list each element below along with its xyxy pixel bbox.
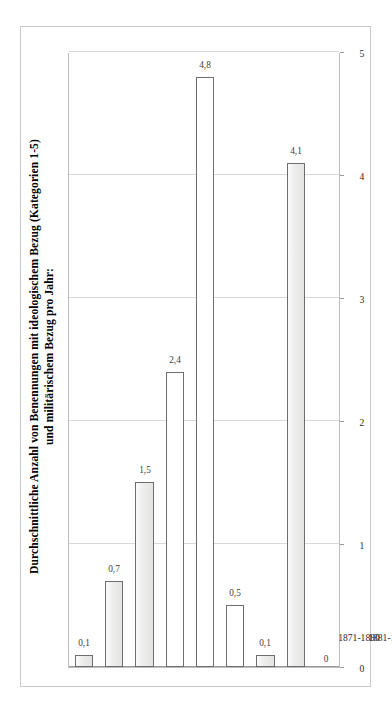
bar-slot: 0 [317,52,335,667]
value-tick-mark-1 [340,544,344,545]
value-tick-label-3: 3 [360,294,365,305]
chart-title-line-2: und militärischem Bezug pro Jahr: [42,27,57,686]
bar-value-label-1891-1900: 1,5 [139,466,151,476]
bar-1871-1880[interactable] [75,655,93,667]
bar-slot: 0,7 [105,52,123,667]
value-tick-label-5: 5 [360,48,365,59]
value-tick-label-1: 1 [360,540,365,551]
bar-slot: 4,1 [287,52,305,667]
value-tick-mark-0 [340,667,344,668]
bar-slot: 0,1 [75,52,93,667]
bar-value-label-1915-1918: 0,5 [229,589,241,599]
value-tick-mark-2 [340,421,344,422]
chart-title: Durchschnittliche Anzahl von Benennungen… [27,27,57,686]
bar-1881-1890[interactable] [105,581,123,667]
bar-value-label-1919-1932: 0,1 [260,638,272,648]
chart-title-line-1: Durchschnittliche Anzahl von Benennungen… [27,27,42,686]
bar-value-label-1881-1890: 0,7 [109,564,121,574]
value-axis [68,668,340,686]
value-tick-mark-3 [340,298,344,299]
bar-1901-1910[interactable] [166,372,184,667]
bar-slot: 0,5 [226,52,244,667]
bar-value-label-1933-1939: 4,1 [290,146,302,156]
plot-area: 0,10,71,52,44,80,50,14,10 [68,53,340,668]
bar-slot: 4,8 [196,52,214,667]
bar-value-label-1940-1945: 0 [324,654,329,664]
rotated-chart-canvas: Durchschnittliche Anzahl von Benennungen… [21,27,370,686]
value-tick-label-0: 0 [360,663,365,674]
bar-1891-1900[interactable] [135,483,153,668]
bar-1911-1914[interactable] [196,77,214,667]
value-tick-mark-5 [340,52,344,53]
bar-slot: 0,1 [256,52,274,667]
bar-value-label-1911-1914: 4,8 [199,60,211,70]
bar-value-label-1901-1910: 2,4 [169,355,181,365]
bar-1933-1939[interactable] [287,163,305,667]
chart-frame: Durchschnittliche Anzahl von Benennungen… [20,26,371,687]
bar-slot: 1,5 [135,52,153,667]
category-label-1881-1890: 1881-1890 [369,632,392,643]
bar-slot: 2,4 [166,52,184,667]
bar-1915-1918[interactable] [226,606,244,668]
value-tick-label-4: 4 [360,171,365,182]
bar-1919-1932[interactable] [256,655,274,667]
value-tick-label-2: 2 [360,417,365,428]
value-tick-mark-4 [340,175,344,176]
category-axis: 1871-18801881-18901891-19001901-19101911… [344,53,364,668]
bar-value-label-1871-1880: 0,1 [78,638,90,648]
